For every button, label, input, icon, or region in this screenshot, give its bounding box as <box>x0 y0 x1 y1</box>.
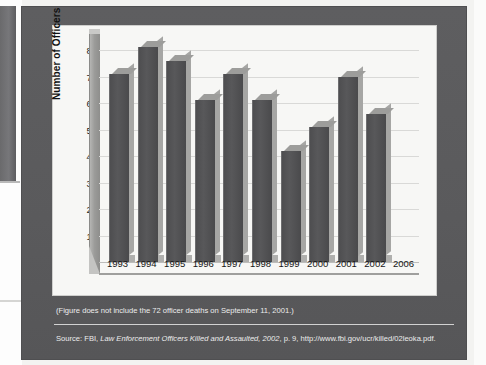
bar-2000 <box>309 127 328 262</box>
x-tick-label-2006: 2006 <box>387 259 421 269</box>
bar-front-face <box>338 77 358 263</box>
bar-1994 <box>138 47 157 262</box>
bar-2002 <box>366 114 385 262</box>
axis-wall-cap <box>89 29 100 34</box>
bar-front-face <box>309 127 329 262</box>
axis-wall-3d <box>89 33 100 274</box>
figure-source: Source: FBI, Law Enforcement Officers Ki… <box>56 334 456 343</box>
chart-panel: Number of Officers 01020304050607080 <box>52 25 437 296</box>
scan-edge-line <box>0 181 20 183</box>
figure-container: Number of Officers 01020304050607080 199… <box>22 7 466 359</box>
bar-1999 <box>281 151 300 262</box>
bar-front-face <box>281 151 301 262</box>
bar-front-face <box>195 100 215 262</box>
bar-1996 <box>195 100 214 262</box>
bar-front-face <box>166 61 186 262</box>
figure-footnote: (Figure does not include the 72 officer … <box>56 306 452 315</box>
bar-2001 <box>338 77 357 263</box>
source-prefix: Source: FBI, <box>56 334 100 343</box>
bar-front-face <box>223 74 243 262</box>
plot-area <box>99 34 419 274</box>
bar-1998 <box>252 100 271 262</box>
bar-front-face <box>366 114 386 262</box>
bar-front-face <box>138 47 158 262</box>
bar-front-face <box>252 100 272 262</box>
source-suffix: , p. 9, http://www.fbi.gov/ucr/killed/02… <box>279 334 435 343</box>
x-axis-tick-labels: 1993199419951996199719981999200020012002… <box>52 259 435 277</box>
page-right-margin <box>474 0 486 365</box>
y-axis-title: Number of Officers <box>51 0 62 100</box>
scan-edge-artifact <box>0 6 16 181</box>
bar-1997 <box>223 74 242 262</box>
bar-1995 <box>166 61 185 262</box>
scan-edge-line-lower <box>0 300 24 302</box>
bar-front-face <box>109 74 129 262</box>
footnote-divider <box>54 324 454 325</box>
source-publication-title: Law Enforcement Officers Killed and Assa… <box>100 334 279 343</box>
bar-1993 <box>109 74 128 262</box>
